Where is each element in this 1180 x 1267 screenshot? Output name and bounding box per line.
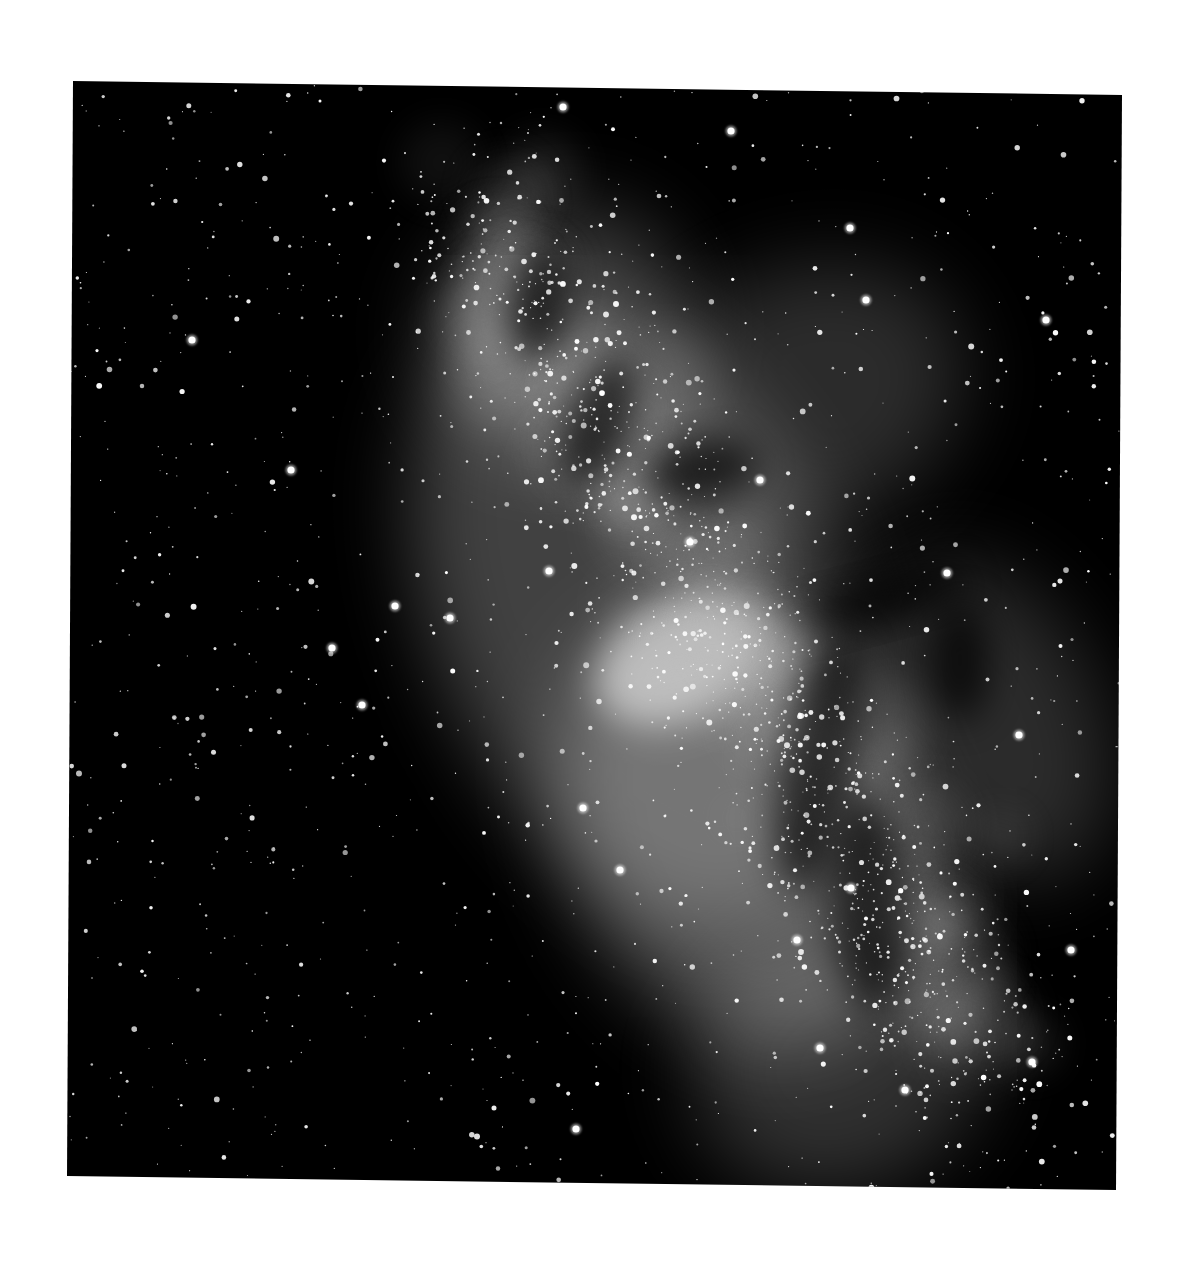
bright-star <box>188 336 195 343</box>
bright-star <box>793 936 800 943</box>
bright-star <box>358 701 365 708</box>
bright-star <box>287 466 294 473</box>
bright-star <box>943 569 950 576</box>
bright-star <box>545 567 552 574</box>
bright-star <box>846 224 853 231</box>
bright-star <box>686 538 693 545</box>
star-field-canvas <box>0 0 1180 1267</box>
bright-star <box>616 866 623 873</box>
bright-star <box>1028 1058 1035 1065</box>
bright-star <box>1042 316 1049 323</box>
bright-star <box>1015 731 1022 738</box>
milky-way-photograph <box>0 0 1180 1267</box>
bright-star <box>328 644 335 651</box>
bright-star <box>756 476 763 483</box>
bright-star <box>847 884 854 891</box>
bright-star <box>901 1086 908 1093</box>
bright-star <box>727 127 734 134</box>
bright-star <box>1067 946 1074 953</box>
bright-star <box>572 1125 579 1132</box>
bright-star <box>391 602 398 609</box>
bright-star <box>559 103 566 110</box>
bright-star <box>816 1044 823 1051</box>
bright-star <box>862 296 869 303</box>
bright-star <box>446 614 453 621</box>
bright-star <box>579 804 586 811</box>
